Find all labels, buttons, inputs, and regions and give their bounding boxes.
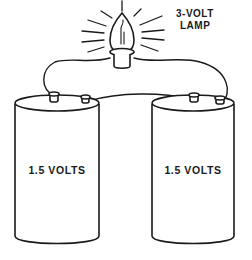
ray: [101, 11, 112, 18]
ray: [142, 38, 164, 40]
lamp-socket-base: [114, 54, 130, 68]
battery-right-terminal-2: [215, 96, 225, 104]
battery-left: 1.5 VOLTS: [15, 92, 99, 244]
light-bulb-icon: [110, 13, 134, 51]
ray: [82, 31, 104, 33]
ray: [142, 30, 164, 32]
ray: [88, 20, 106, 26]
wire-lamp-to-left-battery: [44, 58, 110, 96]
lamp: [110, 13, 134, 68]
battery-left-label: 1.5 VOLTS: [28, 164, 85, 176]
lamp-label-line2: LAMP: [180, 20, 210, 31]
ray: [141, 45, 158, 51]
ray: [140, 16, 162, 25]
battery-right: 1.5 VOLTS: [152, 93, 234, 244]
battery-left-terminal-1: [49, 92, 59, 102]
ray: [82, 40, 104, 42]
battery-right-terminal-1: [189, 93, 199, 102]
battery-left-terminal-2: [81, 95, 90, 103]
ray: [134, 9, 141, 16]
lamp-label-line1: 3-VOLT: [176, 8, 214, 19]
battery-right-label: 1.5 VOLTS: [164, 164, 221, 176]
circuit-diagram: 3-VOLT LAMP 1.5 VOLTS 1.5 VOLTS: [0, 0, 252, 260]
ray: [88, 47, 104, 52]
